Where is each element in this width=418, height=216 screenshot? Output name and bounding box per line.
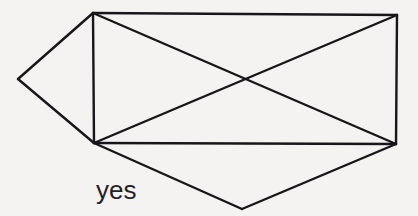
left-triangle-lower-edge: [18, 79, 94, 143]
bottom-triangle-right-edge: [242, 144, 396, 209]
rect-left-edge: [93, 13, 94, 143]
drawing-canvas: yes: [0, 0, 418, 216]
rect-bottom-edge: [94, 143, 396, 144]
figure-caption: yes: [96, 175, 136, 205]
rect-right-edge: [396, 15, 397, 144]
rect-top-edge: [93, 13, 397, 15]
polygon-figure: [0, 0, 418, 216]
left-triangle-upper-edge: [18, 13, 93, 79]
